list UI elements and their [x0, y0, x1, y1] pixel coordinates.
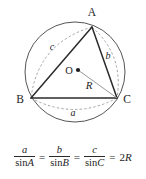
result-variable-r: R	[125, 151, 132, 163]
center-label-o: O	[65, 65, 73, 76]
numerator-b: b	[54, 145, 65, 156]
radius-line	[78, 70, 117, 98]
vertex-label-c: C	[123, 93, 131, 105]
angle-c-label: C	[97, 157, 104, 168]
angle-a-label: A	[27, 157, 33, 168]
fraction-a-over-sin-a: a sinA	[14, 145, 35, 169]
side-label-a: a	[71, 107, 76, 118]
side-label-c: c	[50, 41, 55, 52]
equals-sign-1: =	[38, 151, 46, 163]
denominator-sin-a: sinA	[14, 158, 35, 169]
sin-function-label: sin	[15, 157, 27, 168]
equals-sign-3: =	[108, 151, 116, 163]
vertex-label-a: A	[88, 6, 97, 18]
angle-b-label: B	[62, 157, 68, 168]
center-dot	[76, 68, 80, 72]
denominator-sin-c: sinC	[84, 158, 105, 169]
sin-function-label: sin	[50, 157, 62, 168]
vertex-label-b: B	[16, 93, 24, 105]
sin-function-label: sin	[85, 157, 97, 168]
numerator-a: a	[19, 145, 30, 156]
numerator-c: c	[89, 145, 100, 156]
triangle-side-ac	[92, 27, 117, 98]
fraction-b-over-sin-b: b sinB	[49, 145, 70, 169]
radius-label: R	[85, 79, 93, 91]
fraction-c-over-sin-c: c sinC	[84, 145, 105, 169]
denominator-sin-b: sinB	[49, 158, 70, 169]
equals-sign-2: =	[73, 151, 81, 163]
triangle-side-ab	[31, 27, 92, 98]
geometry-figure: A B C O R a b c	[0, 0, 146, 134]
side-label-b: b	[106, 50, 111, 61]
law-of-sines-formula: a sinA = b sinB = c sinC = 2R	[0, 134, 146, 179]
result-two-r: 2R	[120, 151, 132, 163]
